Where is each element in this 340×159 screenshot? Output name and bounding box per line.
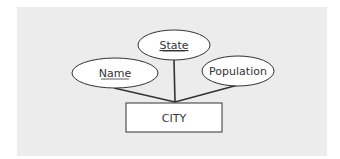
er-diagram: State Name Population CITY [0, 0, 340, 159]
entity-city-label: CITY [162, 112, 187, 125]
connector-population [175, 85, 238, 102]
attribute-population-label: Population [209, 65, 267, 78]
attribute-state: State [138, 30, 210, 60]
entity-city: CITY [126, 103, 222, 132]
attribute-name: Name [72, 58, 158, 88]
attribute-state-label: State [159, 39, 188, 52]
connector-state [174, 60, 175, 102]
attribute-population: Population [202, 56, 274, 86]
attribute-name-label: Name [99, 67, 132, 80]
connector-name [114, 88, 175, 102]
